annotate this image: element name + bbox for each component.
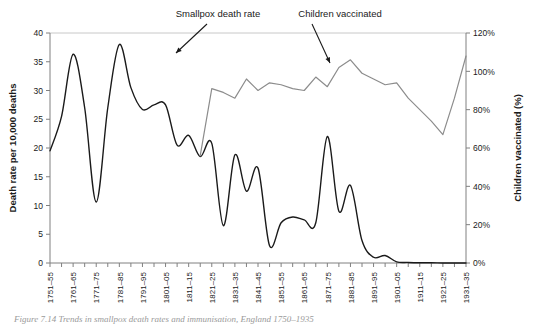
series-line-children-vaccinated: [200, 56, 466, 156]
y-tick-label-left: 0: [38, 258, 43, 268]
y-tick-label-right: 100%: [473, 67, 495, 77]
y-tick-label-left: 5: [38, 229, 43, 239]
y-axis-title-right: Children vaccinated (%): [512, 94, 523, 202]
x-tick-label: 1801–05: [162, 271, 171, 303]
y-tick-label-left: 20: [34, 143, 44, 153]
y-tick-label-left: 35: [34, 57, 44, 67]
y-tick-label-right: 120%: [473, 28, 495, 38]
y-tick-label-right: 0%: [473, 258, 486, 268]
x-tick-label: 1831–35: [231, 271, 240, 303]
x-tick-label: 1931–35: [462, 271, 471, 303]
y-tick-label-left: 40: [34, 28, 44, 38]
y-axis-title-left: Death rate per 10,000 deaths: [7, 84, 18, 213]
x-tick-label: 1911–15: [416, 271, 425, 302]
y-tick-label-left: 30: [34, 86, 44, 96]
x-tick-label: 1811–15: [185, 271, 194, 302]
smallpox-vaccination-chart: 05101520253035400%20%40%60%80%100%120%17…: [0, 0, 535, 324]
figure-caption: Figure 7.14 Trends in smallpox death rat…: [14, 314, 314, 324]
y-tick-label-left: 10: [34, 201, 44, 211]
x-tick-label: 1891–95: [370, 271, 379, 303]
x-tick-label: 1751–55: [46, 271, 55, 303]
x-tick-label: 1781–85: [116, 271, 125, 303]
annotation-label-children-vaccinated: Children vaccinated: [298, 8, 381, 19]
annotation-arrow-smallpox-death-rate: [176, 24, 207, 53]
x-tick-label: 1841–45: [254, 271, 263, 303]
x-tick-label: 1791–95: [139, 271, 148, 303]
series-line-smallpox-death-rate: [50, 44, 466, 263]
x-tick-label: 1921–25: [439, 271, 448, 303]
y-tick-label-right: 60%: [473, 143, 490, 153]
annotation-label-smallpox-death-rate: Smallpox death rate: [176, 8, 261, 19]
x-tick-label: 1851–55: [277, 271, 286, 303]
y-tick-label-left: 25: [34, 114, 44, 124]
x-tick-label: 1761–65: [69, 271, 78, 303]
x-tick-label: 1771–75: [92, 271, 101, 303]
y-tick-label-right: 40%: [473, 182, 490, 192]
y-tick-label-left: 15: [34, 172, 44, 182]
annotation-arrow-children-vaccinated: [312, 24, 330, 63]
y-tick-label-right: 20%: [473, 220, 490, 230]
x-tick-label: 1861–65: [300, 271, 309, 303]
x-tick-label: 1901–05: [393, 271, 402, 303]
x-tick-label: 1871–75: [324, 271, 333, 303]
x-tick-label: 1881–85: [347, 271, 356, 303]
y-tick-label-right: 80%: [473, 105, 490, 115]
figure-container: 05101520253035400%20%40%60%80%100%120%17…: [0, 0, 535, 324]
x-tick-label: 1821–25: [208, 271, 217, 303]
